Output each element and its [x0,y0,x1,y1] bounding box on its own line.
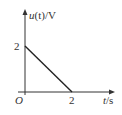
origin-label: O [15,94,23,106]
x-label-unit: /s [106,94,113,106]
data-line [25,46,72,92]
y-label-unit: (t)/V [35,9,56,22]
y-axis-arrow-icon [23,9,28,15]
x-axis-label: t/s [103,94,113,106]
chart: u(t)/V 2 O 2 t/s [0,0,122,115]
y-axis-label: u(t)/V [29,9,56,22]
x-tick-label: 2 [69,94,75,106]
y-tick-label: 2 [14,40,20,52]
